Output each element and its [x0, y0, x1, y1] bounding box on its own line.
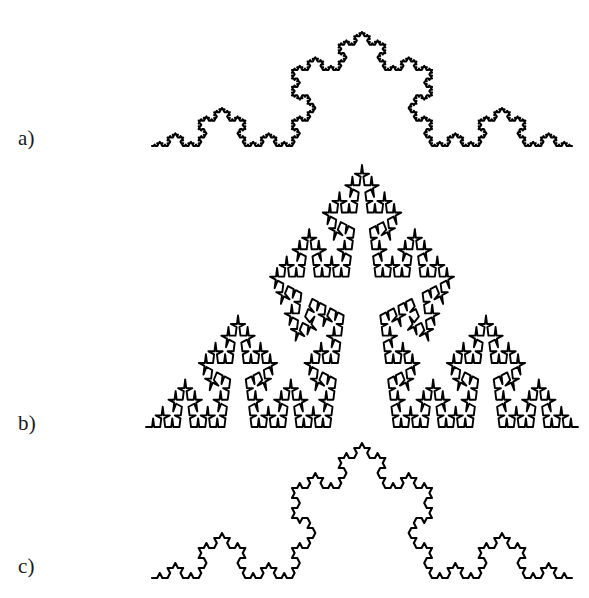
figure-canvas: a) b) c): [0, 0, 589, 598]
fractal-plot-area: [0, 0, 589, 598]
panel-label-c: c): [18, 556, 35, 577]
koch-curve-b: [146, 165, 578, 427]
panel-label-b: b): [18, 413, 36, 434]
panel-label-a: a): [18, 128, 35, 149]
koch-curve-a: [152, 32, 572, 146]
koch-curve-c: [152, 443, 572, 578]
